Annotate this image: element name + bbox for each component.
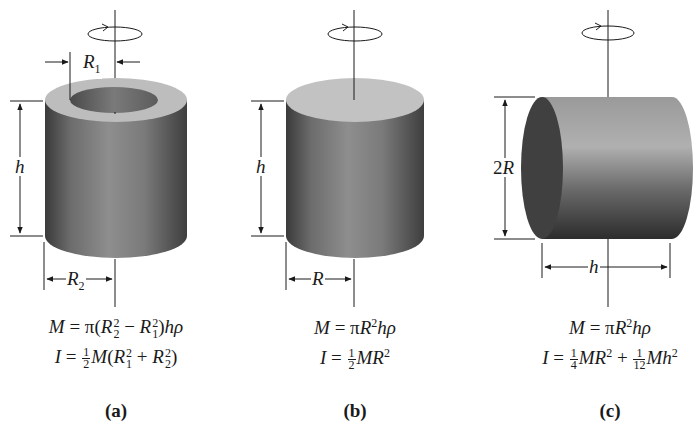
caption-c: (c) xyxy=(500,400,700,422)
hollow-cylinder xyxy=(45,10,187,307)
label-r2: R2 xyxy=(66,269,86,296)
mass-equation-a: M = π(R22 − R21)hρ xyxy=(0,316,232,340)
figure-canvas xyxy=(0,0,700,439)
caption-a: (a) xyxy=(0,400,232,422)
inertia-equation-a: I = 12M(R21 + R22) xyxy=(0,346,232,370)
solid-cylinder-vertical xyxy=(286,10,424,307)
caption-b: (b) xyxy=(250,400,460,422)
label-r1: R1 xyxy=(82,52,102,79)
inertia-equation-b: I = 12MR2 xyxy=(250,346,460,371)
inertia-equation-c: I = 14MR2 + 112Mh2 xyxy=(500,346,700,371)
label-radius-b: R xyxy=(311,269,325,288)
label-height-b: h xyxy=(255,157,267,176)
mass-equation-b: M = πR2hρ xyxy=(250,316,460,339)
label-diameter-c: 2R xyxy=(492,158,515,177)
solid-cylinder-horizontal xyxy=(521,10,693,307)
rotation-arrow-icon xyxy=(328,24,382,41)
label-length-c: h xyxy=(588,257,600,276)
mass-equation-c: M = πR2hρ xyxy=(500,316,700,339)
label-height-a: h xyxy=(14,157,26,176)
